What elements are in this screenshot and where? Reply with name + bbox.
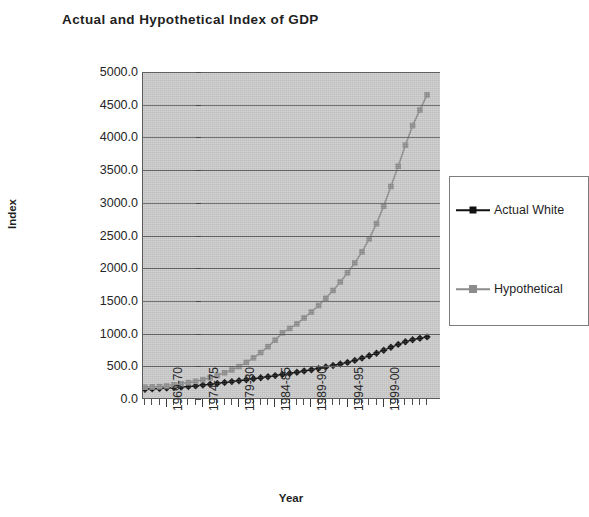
x-axis-tick-label: 1989-90 (315, 367, 329, 411)
x-axis-tick-label: 1979-80 (243, 367, 257, 411)
x-axis-tick-label: 1994-95 (352, 367, 366, 411)
legend-swatch-hypothetical (456, 283, 490, 295)
legend-label-actual-white: Actual White (494, 203, 564, 217)
x-axis-tick-label: 1974-75 (207, 367, 221, 411)
legend-entry-hypothetical: Hypothetical (456, 282, 563, 296)
legend-label-hypothetical: Hypothetical (494, 282, 563, 296)
x-axis-tick-label: 1984-85 (279, 367, 293, 411)
legend-entry-actual-white: Actual White (456, 203, 564, 217)
square-marker-icon (469, 285, 477, 293)
x-axis-tick-label: 1969-70 (171, 367, 185, 411)
chart-legend: Actual White Hypothetical (449, 176, 589, 326)
diamond-marker-icon (470, 207, 477, 214)
legend-swatch-actual-white (456, 204, 490, 216)
x-axis-tick-label: 1999-00 (388, 367, 402, 411)
